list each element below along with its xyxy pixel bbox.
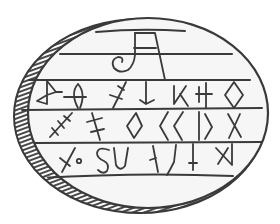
stone-drawing bbox=[0, 0, 280, 224]
line-4 bbox=[35, 142, 262, 143]
stone-face bbox=[28, 18, 268, 208]
inscribed-stone-figure: Inscribed oval stone / amulet drawing wi… bbox=[0, 0, 280, 224]
